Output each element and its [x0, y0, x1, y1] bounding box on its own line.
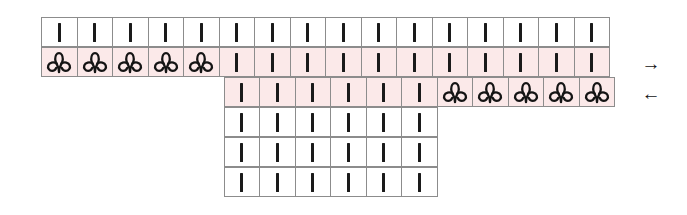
knit-stitch-icon	[306, 23, 309, 42]
chart-cell[interactable]	[508, 77, 545, 107]
chart-cell[interactable]	[330, 107, 367, 137]
knit-stitch-icon	[276, 173, 279, 192]
chart-cell[interactable]	[366, 137, 403, 167]
knit-stitch-icon	[129, 23, 132, 42]
chart-cell[interactable]	[366, 77, 403, 107]
chart-cell[interactable]	[401, 137, 438, 167]
knit-stitch-icon	[276, 113, 279, 132]
chart-cell[interactable]	[295, 167, 332, 197]
knit-stitch-icon	[413, 53, 416, 72]
arrow-left: ←	[634, 78, 668, 108]
chart-cell[interactable]	[41, 17, 78, 47]
chart-cell[interactable]	[396, 17, 433, 47]
chart-cell[interactable]	[148, 17, 185, 47]
chart-cell[interactable]	[259, 107, 296, 137]
chart-cell[interactable]	[290, 17, 327, 47]
chart-cell[interactable]	[112, 17, 149, 47]
chart-cell[interactable]	[401, 77, 438, 107]
chart-cell[interactable]	[325, 47, 362, 77]
chart-cell[interactable]	[361, 47, 398, 77]
chart-cell[interactable]	[77, 17, 114, 47]
chart-cell[interactable]	[254, 47, 291, 77]
chart-row-4	[225, 108, 438, 138]
knit-stitch-icon	[311, 83, 314, 102]
chart-cell[interactable]	[290, 47, 327, 77]
chart-cell[interactable]	[396, 47, 433, 77]
knit-stitch-icon	[342, 23, 345, 42]
knitting-chart: →←	[0, 0, 687, 215]
chart-cell[interactable]	[401, 167, 438, 197]
chart-cell[interactable]	[467, 17, 504, 47]
chart-cell[interactable]	[112, 47, 149, 77]
chart-cell[interactable]	[259, 137, 296, 167]
chart-cell[interactable]	[224, 77, 261, 107]
twisted-stitch-icon	[513, 81, 539, 104]
knit-stitch-icon	[235, 23, 238, 42]
knit-stitch-icon	[276, 83, 279, 102]
chart-cell[interactable]	[361, 17, 398, 47]
chart-cell[interactable]	[574, 17, 611, 47]
knit-stitch-icon	[382, 143, 385, 162]
chart-cell[interactable]	[254, 17, 291, 47]
chart-cell[interactable]	[467, 47, 504, 77]
knit-stitch-icon	[235, 53, 238, 72]
chart-cell[interactable]	[219, 47, 256, 77]
chart-cell[interactable]	[574, 47, 611, 77]
chart-cell[interactable]	[538, 17, 575, 47]
chart-cell[interactable]	[224, 107, 261, 137]
twisted-stitch-icon	[548, 81, 574, 104]
twisted-stitch-icon	[442, 81, 468, 104]
chart-cell[interactable]	[401, 107, 438, 137]
chart-cell[interactable]	[224, 137, 261, 167]
chart-cell[interactable]	[432, 17, 469, 47]
knit-stitch-icon	[311, 113, 314, 132]
chart-cell[interactable]	[259, 167, 296, 197]
chart-cell[interactable]	[325, 17, 362, 47]
twisted-stitch-icon	[584, 81, 610, 104]
chart-row-5	[225, 138, 438, 168]
chart-cell[interactable]	[472, 77, 509, 107]
chart-cell[interactable]	[503, 17, 540, 47]
chart-cell[interactable]	[330, 77, 367, 107]
chart-grid: →←	[0, 0, 687, 215]
chart-cell[interactable]	[543, 77, 580, 107]
chart-cell[interactable]	[366, 107, 403, 137]
knit-stitch-icon	[448, 23, 451, 42]
chart-cell[interactable]	[183, 47, 220, 77]
knit-stitch-icon	[413, 23, 416, 42]
chart-cell[interactable]	[219, 17, 256, 47]
knit-stitch-icon	[418, 173, 421, 192]
chart-cell[interactable]	[295, 137, 332, 167]
knit-stitch-icon	[311, 143, 314, 162]
chart-cell[interactable]	[366, 167, 403, 197]
chart-cell[interactable]	[432, 47, 469, 77]
chart-cell[interactable]	[224, 167, 261, 197]
knit-stitch-icon	[240, 143, 243, 162]
chart-cell[interactable]	[41, 47, 78, 77]
knit-stitch-icon	[590, 23, 593, 42]
chart-cell[interactable]	[183, 17, 220, 47]
chart-cell[interactable]	[77, 47, 114, 77]
chart-cell[interactable]	[538, 47, 575, 77]
chart-cell[interactable]	[295, 77, 332, 107]
chart-row-2	[42, 48, 610, 78]
chart-cell[interactable]	[330, 137, 367, 167]
knit-stitch-icon	[347, 83, 350, 102]
chart-cell[interactable]	[330, 167, 367, 197]
chart-cell[interactable]	[503, 47, 540, 77]
chart-row-6	[225, 168, 438, 198]
knit-stitch-icon	[484, 23, 487, 42]
chart-cell[interactable]	[579, 77, 616, 107]
chart-cell[interactable]	[437, 77, 474, 107]
knit-stitch-icon	[276, 143, 279, 162]
knit-stitch-icon	[311, 173, 314, 192]
chart-cell[interactable]	[295, 107, 332, 137]
chart-cell[interactable]	[148, 47, 185, 77]
knit-stitch-icon	[271, 53, 274, 72]
chart-row-3	[225, 78, 616, 108]
knit-stitch-icon	[347, 143, 350, 162]
knit-stitch-icon	[448, 53, 451, 72]
knit-stitch-icon	[342, 53, 345, 72]
chart-cell[interactable]	[259, 77, 296, 107]
knit-stitch-icon	[418, 83, 421, 102]
